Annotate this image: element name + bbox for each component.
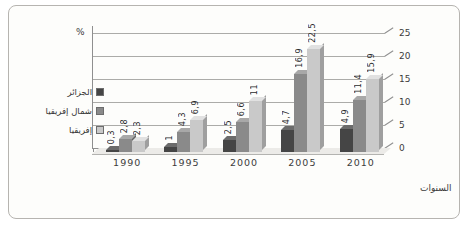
bar-1995-series1	[177, 132, 190, 152]
x-category-label: 1990	[98, 157, 156, 168]
x-category-label: 2005	[273, 157, 331, 168]
y-tick-label: 5	[399, 120, 405, 130]
bar-data-label: 2,8	[120, 119, 129, 133]
bar-front-face	[177, 132, 190, 152]
bar-front-face	[190, 120, 203, 152]
bar-2005-series2	[307, 49, 320, 152]
chart-floor-edge	[92, 154, 384, 155]
bar-data-label: 4,9	[341, 109, 350, 123]
x-axis-title: السنوات	[420, 183, 452, 193]
bar-side-face	[203, 114, 207, 150]
legend-label: إفريقيا	[69, 125, 92, 135]
bar-1995-series2	[190, 120, 203, 152]
bar-data-label: 2,5	[224, 120, 233, 134]
y-tick-label: 20	[399, 51, 410, 61]
bar-data-label: 4,7	[282, 110, 291, 124]
bar-1990-series0	[106, 150, 119, 152]
bar-front-face	[236, 122, 249, 152]
bar-2005-series1	[294, 74, 307, 152]
bar-front-face	[106, 150, 119, 152]
y-axis-unit-label: %	[76, 27, 85, 37]
y-tick-label: 15	[399, 74, 410, 84]
chart-figure: % الجزائرشمال إفريقياإفريقيا 0,32,82,314…	[0, 0, 468, 226]
x-category-label: 2000	[215, 157, 273, 168]
bar-data-label: 11	[250, 84, 259, 95]
bar-2010-series0	[340, 129, 353, 152]
bar-2010-series2	[366, 79, 379, 152]
bar-front-face	[366, 79, 379, 152]
bar-2000-series1	[236, 122, 249, 152]
bar-data-label: 1	[165, 135, 174, 141]
bar-2000-series2	[249, 101, 262, 152]
bar-front-face	[281, 130, 294, 152]
legend-label: شمال إفريقيا	[46, 106, 92, 116]
bar-2005-series0	[281, 130, 294, 152]
bar-data-label: 2,3	[133, 121, 142, 135]
x-category-label: 2010	[332, 157, 390, 168]
bar-front-face	[249, 101, 262, 152]
legend-label: الجزائر	[67, 87, 92, 97]
bar-2010-series1	[353, 100, 366, 152]
bar-side-face	[320, 43, 324, 150]
bar-data-label: 6,9	[191, 100, 200, 114]
bar-data-label: 4,3	[178, 112, 187, 126]
bar-data-label: 22,5	[308, 23, 317, 43]
bars-layer: 0,32,82,314,36,92,56,6114,716,922,54,911…	[92, 33, 384, 152]
y-tick-label: 0	[399, 143, 405, 153]
bar-1995-series0	[164, 147, 177, 152]
bar-data-label: 16,9	[295, 48, 304, 68]
bar-side-face	[262, 95, 266, 150]
bar-1990-series1	[119, 139, 132, 152]
bar-data-label: 15,9	[367, 53, 376, 73]
bar-2000-series0	[223, 140, 236, 152]
bar-side-face	[379, 73, 383, 150]
bar-data-label: 6,6	[237, 102, 246, 116]
bar-data-label: 11,4	[354, 74, 363, 94]
y-tick-label: 25	[399, 28, 410, 38]
bar-front-face	[132, 141, 145, 152]
bar-front-face	[340, 129, 353, 152]
bar-1990-series2	[132, 141, 145, 152]
bar-data-label: 0,3	[107, 130, 116, 144]
x-category-label: 1995	[156, 157, 214, 168]
bar-front-face	[164, 147, 177, 152]
bar-front-face	[307, 49, 320, 152]
y-tick-label: 10	[399, 97, 410, 107]
bar-front-face	[294, 74, 307, 152]
bar-front-face	[353, 100, 366, 152]
bar-front-face	[119, 139, 132, 152]
bar-front-face	[223, 140, 236, 152]
